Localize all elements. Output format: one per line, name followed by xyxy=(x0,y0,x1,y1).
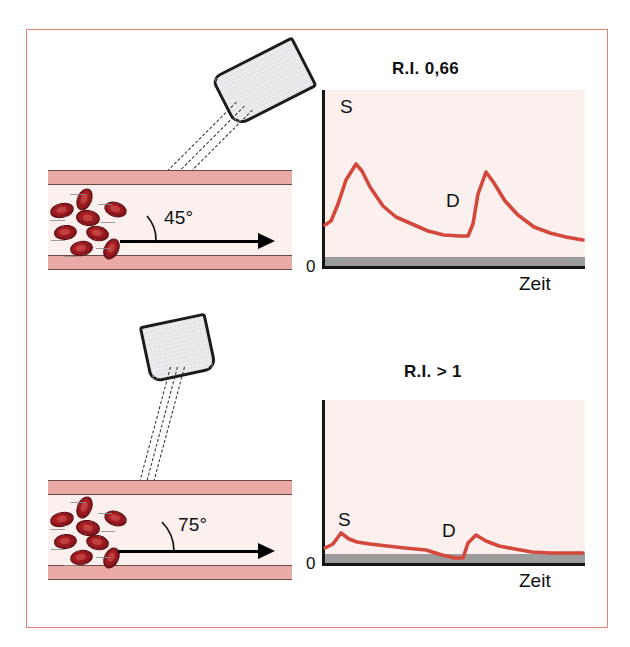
waveform-svg-1 xyxy=(300,52,600,302)
angle-label-75: 75° xyxy=(178,514,207,536)
angle-arc-75-svg xyxy=(30,305,292,600)
chart-ri-greater-1: R.I. > 1 S D 0 Zeit xyxy=(300,355,600,605)
zero-label: 0 xyxy=(306,554,315,574)
waveform-svg-2 xyxy=(300,355,600,605)
systolic-peak-label: S xyxy=(340,96,353,118)
illustration-45-degree: 45° xyxy=(30,40,292,310)
angle-label-45: 45° xyxy=(164,207,193,229)
diastolic-label: D xyxy=(446,190,460,212)
doppler-angle-figure: 45° xyxy=(0,0,630,647)
x-axis-label: Zeit xyxy=(519,273,551,295)
systolic-peak-label: S xyxy=(338,509,351,531)
angle-arc-45 xyxy=(147,216,156,241)
angle-arc-45-svg xyxy=(30,40,292,310)
x-axis-label: Zeit xyxy=(519,570,551,592)
diastolic-label: D xyxy=(442,520,456,542)
zero-label: 0 xyxy=(306,257,315,277)
angle-arc-75 xyxy=(162,522,174,551)
illustration-75-degree: 75° xyxy=(30,305,292,600)
chart-ri-0-66: R.I. 0,66 S D 0 Zeit xyxy=(300,52,600,302)
